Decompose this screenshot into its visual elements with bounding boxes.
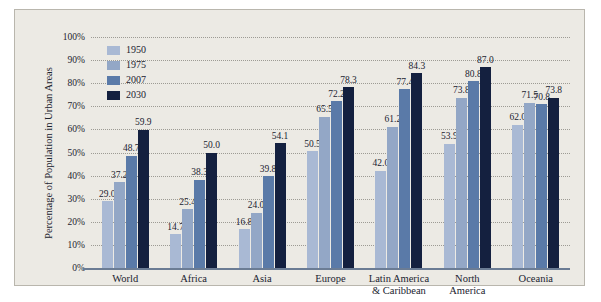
chart-screenshot: Percentage of Population in Urban Areas … (0, 0, 601, 302)
bar[interactable]: 78.3 (343, 37, 354, 268)
bar[interactable]: 61.2 (387, 37, 398, 268)
x-axis-line (83, 268, 570, 270)
bar[interactable]: 72.2 (331, 37, 342, 268)
bar-fill (239, 229, 250, 268)
legend-item[interactable]: 1975 (107, 58, 177, 72)
bar-fill (512, 125, 523, 268)
bar-group: 62.071.570.873.8Oceania (502, 37, 570, 268)
bar-fill (331, 101, 342, 268)
y-axis-tick-label: 20% (27, 217, 85, 227)
bar-group: 16.824.039.854.1Asia (228, 37, 296, 268)
y-axis-tick-label: 100% (27, 32, 85, 42)
bar[interactable]: 50.5 (307, 37, 318, 268)
y-axis-tick-label: 60% (27, 124, 85, 134)
x-axis-category-line: Europe (315, 273, 345, 285)
bar[interactable]: 65.5 (319, 37, 330, 268)
bar-fill (319, 117, 330, 268)
legend-label: 2007 (126, 75, 146, 85)
y-axis-tick-label: 50% (27, 148, 85, 158)
bar-fill (444, 144, 455, 269)
x-axis-category-label: Oceania (519, 273, 553, 285)
bar-fill (387, 127, 398, 268)
y-axis-tick-label: 0% (27, 263, 85, 273)
bar[interactable]: 16.8 (239, 37, 250, 268)
bar[interactable]: 50.0 (206, 37, 217, 268)
bar-value-label: 59.9 (135, 118, 152, 128)
y-axis-tick-label: 90% (27, 55, 85, 65)
x-axis-category-label: Asia (252, 273, 271, 285)
bar[interactable]: 62.0 (512, 37, 523, 268)
bar[interactable]: 53.9 (444, 37, 455, 268)
bar-fill (307, 151, 318, 268)
legend-label: 1950 (126, 45, 146, 55)
legend-label: 1975 (126, 60, 146, 70)
bar[interactable]: 73.8 (548, 37, 559, 268)
x-axis-category-line: North (449, 273, 485, 285)
bar-fill (524, 103, 535, 268)
bar-fill (170, 234, 181, 268)
bar-fill (206, 153, 217, 269)
bars-row: 53.973.880.887.0 (433, 37, 501, 268)
bars-row: 42.061.277.484.3 (365, 37, 433, 268)
bar-value-label: 78.3 (340, 76, 357, 86)
bar[interactable]: 87.0 (480, 37, 491, 268)
bar-fill (399, 89, 410, 268)
x-axis-category-label: Africa (180, 273, 207, 285)
x-axis-category-line: Oceania (519, 273, 553, 285)
bar-fill (126, 156, 137, 268)
bar-fill (102, 201, 113, 268)
bar-fill (343, 87, 354, 268)
bar-fill (251, 213, 262, 268)
bar-group: 53.973.880.887.0NorthAmerica (433, 37, 501, 268)
bar[interactable]: 71.5 (524, 37, 535, 268)
y-axis-tick-label: 40% (27, 171, 85, 181)
y-axis-tick-label: 80% (27, 78, 85, 88)
legend-label: 2030 (126, 90, 146, 100)
legend-swatch (107, 91, 120, 100)
bar-group: 42.061.277.484.3Latin America& Caribbean (365, 37, 433, 268)
x-axis-category-line: & Caribbean (369, 285, 429, 297)
bar[interactable]: 80.8 (468, 37, 479, 268)
bars-row: 62.071.570.873.8 (502, 37, 570, 268)
x-axis-category-label: World (112, 273, 138, 285)
bar-fill (480, 67, 491, 268)
bar[interactable]: 24.0 (251, 37, 262, 268)
bar-value-label: 73.8 (545, 86, 562, 96)
bars-row: 50.565.572.278.3 (296, 37, 364, 268)
chart-panel: Percentage of Population in Urban Areas … (14, 9, 585, 286)
legend-item[interactable]: 2007 (107, 73, 177, 87)
bar-fill (468, 81, 479, 268)
legend-item[interactable]: 2030 (107, 88, 177, 102)
x-axis-category-line: Asia (252, 273, 271, 285)
chart-legend: 1950197520072030 (107, 43, 177, 103)
bar-fill (411, 73, 422, 268)
bar-fill (194, 180, 205, 268)
bar[interactable]: 54.1 (275, 37, 286, 268)
bar-fill (375, 171, 386, 268)
bar[interactable]: 77.4 (399, 37, 410, 268)
x-axis-category-label: Europe (315, 273, 345, 285)
bar-fill (536, 104, 547, 268)
bar[interactable]: 84.3 (411, 37, 422, 268)
bar-fill (548, 98, 559, 268)
legend-swatch (107, 76, 120, 85)
bar-value-label: 84.3 (409, 62, 426, 72)
bar-fill (138, 130, 149, 268)
y-axis-tick-label: 10% (27, 240, 85, 250)
bar[interactable]: 38.3 (194, 37, 205, 268)
bar-fill (263, 176, 274, 268)
bar-fill (182, 209, 193, 268)
bar-value-label: 54.1 (272, 132, 289, 142)
x-axis-category-line: Latin America (369, 273, 429, 285)
bar[interactable]: 70.8 (536, 37, 547, 268)
legend-item[interactable]: 1950 (107, 43, 177, 57)
bar-group: 50.565.572.278.3Europe (296, 37, 364, 268)
bar-fill (456, 98, 467, 268)
x-axis-category-line: America (449, 285, 485, 297)
bar[interactable]: 42.0 (375, 37, 386, 268)
bars-row: 16.824.039.854.1 (228, 37, 296, 268)
x-axis-category-line: World (112, 273, 138, 285)
bar-value-label: 87.0 (477, 56, 494, 66)
bar[interactable]: 25.4 (182, 37, 193, 268)
bar[interactable]: 39.8 (263, 37, 274, 268)
